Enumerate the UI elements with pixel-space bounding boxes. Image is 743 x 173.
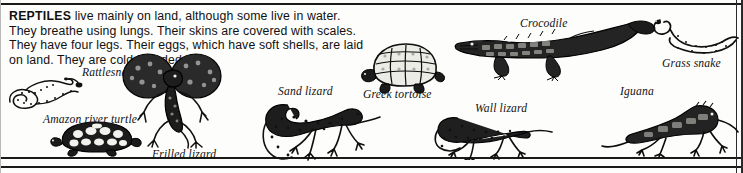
caption-frilled-lizard: Frilled lizard [152, 148, 216, 161]
frilled-lizard-illustration [118, 50, 226, 150]
figure-grass-snake [648, 14, 740, 62]
caption-wall-lizard: Wall lizard [475, 102, 527, 115]
bottom-border-rule-inner [0, 166, 743, 168]
body-line-1: live mainly on land, although some live … [75, 9, 341, 23]
body-line-2: They breathe using lungs. Their skins ar… [9, 24, 356, 38]
grass-snake-illustration [648, 14, 740, 62]
caption-crocodile: Crocodile [520, 17, 568, 30]
sand-lizard-illustration [258, 95, 393, 165]
caption-grass-snake: Grass snake [662, 57, 721, 70]
figure-wall-lizard [432, 110, 562, 160]
figure-frilled-lizard [118, 50, 226, 150]
figure-rattlesnake [6, 72, 84, 112]
heading-term: REPTILES [9, 9, 71, 23]
reptiles-page: REPTILES live mainly on land, although s… [0, 0, 743, 173]
figure-sand-lizard [258, 95, 393, 165]
iguana-illustration [600, 100, 740, 158]
left-border-rule [0, 0, 1, 173]
wall-lizard-illustration [432, 110, 562, 160]
rattlesnake-illustration [6, 72, 84, 112]
caption-sand-lizard: Sand lizard [278, 85, 333, 98]
top-border-rule [0, 3, 743, 5]
caption-greek-tortoise: Greek tortoise [363, 88, 432, 101]
caption-iguana: Iguana [620, 85, 654, 98]
figure-iguana [600, 100, 740, 158]
